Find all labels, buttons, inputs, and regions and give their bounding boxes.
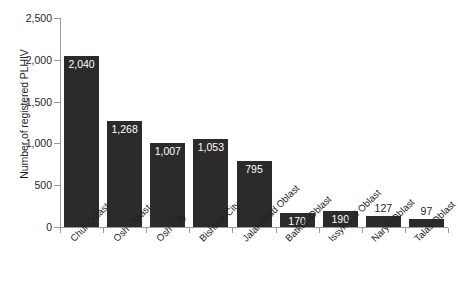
x-tick-mark bbox=[276, 228, 277, 233]
y-axis-line bbox=[60, 18, 61, 227]
x-tick-mark bbox=[103, 228, 104, 233]
y-tick-label: 2,000 bbox=[2, 55, 52, 65]
y-tick-label: 500 bbox=[2, 180, 52, 190]
y-tick-mark bbox=[54, 102, 60, 103]
y-tick-mark bbox=[54, 60, 60, 61]
x-tick-mark bbox=[319, 228, 320, 233]
y-tick-label: 1,500 bbox=[2, 97, 52, 107]
y-tick-mark bbox=[54, 18, 60, 19]
bar-value-label: 1,007 bbox=[150, 145, 185, 157]
y-tick-mark bbox=[54, 143, 60, 144]
x-tick-mark bbox=[362, 228, 363, 233]
y-axis-title: Number of registered PLHIV bbox=[16, 0, 32, 228]
x-tick-mark bbox=[189, 228, 190, 233]
x-tick-mark bbox=[448, 228, 449, 233]
bar-value-label: 1,053 bbox=[193, 141, 228, 153]
y-tick-label: 0 bbox=[2, 222, 52, 232]
bar: 2,040 bbox=[64, 56, 99, 227]
x-tick-mark bbox=[405, 228, 406, 233]
x-tick-mark bbox=[232, 228, 233, 233]
bar-value-label: 2,040 bbox=[64, 58, 99, 70]
y-tick-label: 2,500 bbox=[2, 13, 52, 23]
x-tick-mark bbox=[146, 228, 147, 233]
x-tick-mark bbox=[60, 228, 61, 233]
bar-value-label: 795 bbox=[237, 163, 272, 175]
y-tick-label: 1,000 bbox=[2, 138, 52, 148]
y-tick-mark bbox=[54, 185, 60, 186]
bar-value-label: 1,268 bbox=[107, 123, 142, 135]
